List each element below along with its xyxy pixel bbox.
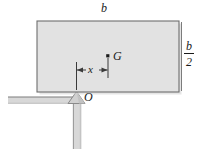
plate-rectangle	[37, 21, 182, 95]
label-pivot-o: O	[84, 91, 93, 103]
support-vertical-column	[73, 97, 81, 149]
label-distance-x: x	[88, 64, 93, 75]
label-centroid-g: G	[113, 50, 122, 62]
label-width-b: b	[101, 2, 107, 14]
fraction-bar	[184, 53, 194, 54]
support-horizontal-bar	[8, 97, 74, 103]
fraction-numerator: b	[184, 40, 194, 53]
figure-canvas	[0, 0, 206, 149]
mechanics-figure: b G x O b 2	[0, 0, 206, 149]
fraction-denominator: 2	[184, 55, 194, 68]
centroid-marker	[106, 54, 109, 57]
label-height-b-over-2: b 2	[184, 40, 194, 68]
